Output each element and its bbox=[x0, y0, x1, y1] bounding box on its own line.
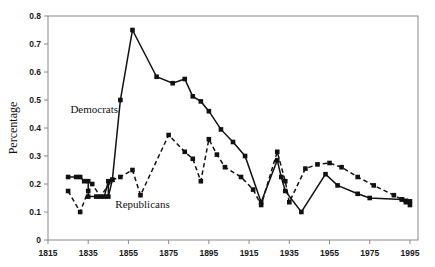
x-tick-label: 1935 bbox=[280, 248, 299, 258]
y-axis-tick-labels: 00.10.20.30.40.50.60.70.8 bbox=[29, 11, 41, 245]
data-point-republicans bbox=[275, 150, 280, 155]
x-tick-label: 1995 bbox=[400, 248, 419, 258]
x-tick-label: 1955 bbox=[320, 248, 339, 258]
data-point-democrats bbox=[335, 183, 340, 188]
data-point-republicans bbox=[315, 162, 320, 167]
data-point-republicans bbox=[130, 168, 135, 173]
data-point-republicans bbox=[404, 199, 409, 204]
data-point-republicans bbox=[408, 199, 413, 204]
plot-frame bbox=[48, 16, 418, 240]
data-point-democrats bbox=[66, 175, 71, 180]
data-point-republicans bbox=[86, 189, 91, 194]
data-point-democrats bbox=[154, 74, 159, 79]
data-point-democrats bbox=[367, 196, 372, 201]
data-point-democrats bbox=[279, 175, 284, 180]
data-point-democrats bbox=[207, 109, 212, 114]
axis-ticks bbox=[44, 16, 410, 244]
data-point-republicans bbox=[90, 182, 95, 187]
x-tick-label: 1875 bbox=[159, 248, 178, 258]
data-point-democrats bbox=[243, 154, 248, 159]
data-series-group bbox=[68, 30, 410, 212]
data-point-republicans bbox=[182, 150, 187, 155]
data-point-republicans bbox=[190, 157, 195, 162]
y-tick-label: 0.2 bbox=[29, 179, 41, 189]
data-point-republicans bbox=[239, 175, 244, 180]
y-tick-label: 0.5 bbox=[29, 95, 41, 105]
data-point-republicans bbox=[66, 189, 71, 194]
data-point-democrats bbox=[182, 77, 187, 82]
data-point-democrats bbox=[82, 179, 87, 184]
data-point-republicans bbox=[98, 194, 103, 199]
data-point-democrats bbox=[130, 28, 135, 33]
data-point-democrats bbox=[219, 127, 224, 132]
data-point-democrats bbox=[78, 175, 83, 180]
data-point-democrats bbox=[355, 192, 360, 197]
x-tick-label: 1835 bbox=[79, 248, 98, 258]
x-tick-label: 1895 bbox=[199, 248, 218, 258]
data-point-democrats bbox=[86, 194, 91, 199]
x-tick-label: 1975 bbox=[360, 248, 379, 258]
data-point-republicans bbox=[287, 200, 292, 205]
data-point-republicans bbox=[110, 178, 115, 183]
data-point-democrats bbox=[323, 172, 328, 177]
data-point-republicans bbox=[118, 175, 123, 180]
x-tick-label: 1815 bbox=[39, 248, 58, 258]
data-point-democrats bbox=[74, 175, 79, 180]
data-point-democrats bbox=[190, 94, 195, 99]
y-tick-label: 0.8 bbox=[29, 11, 41, 21]
data-point-democrats bbox=[199, 99, 204, 104]
chart-figure: 1815183518551875189519151935195519751995… bbox=[0, 0, 435, 267]
y-tick-label: 0.6 bbox=[29, 67, 41, 77]
data-point-republicans bbox=[78, 210, 83, 215]
data-point-democrats bbox=[231, 140, 236, 145]
data-point-republicans bbox=[207, 137, 212, 142]
data-point-republicans bbox=[223, 165, 228, 170]
y-tick-label: 0.1 bbox=[29, 207, 41, 217]
y-tick-label: 0.3 bbox=[29, 151, 41, 161]
data-point-republicans bbox=[283, 179, 288, 184]
data-point-republicans bbox=[339, 165, 344, 170]
data-point-democrats bbox=[86, 179, 91, 184]
x-axis-tick-labels: 1815183518551875189519151935195519751995 bbox=[39, 248, 420, 258]
y-axis-title: Percentage bbox=[6, 102, 20, 155]
data-point-republicans bbox=[199, 179, 204, 184]
y-tick-label: 0.7 bbox=[29, 39, 41, 49]
x-tick-label: 1915 bbox=[240, 248, 259, 258]
line-chart: 1815183518551875189519151935195519751995… bbox=[0, 0, 435, 267]
data-point-democrats bbox=[299, 210, 304, 215]
series-line-democrats bbox=[68, 30, 410, 212]
series-annotations: DemocratsRepublicans bbox=[70, 103, 169, 210]
data-point-democrats bbox=[170, 81, 175, 86]
data-point-republicans bbox=[303, 166, 308, 171]
data-point-republicans bbox=[392, 193, 397, 198]
x-tick-label: 1855 bbox=[119, 248, 138, 258]
series-annotation: Republicans bbox=[115, 198, 169, 210]
data-point-democrats bbox=[102, 194, 107, 199]
data-point-republicans bbox=[371, 183, 376, 188]
data-point-democrats bbox=[275, 158, 280, 163]
y-tick-label: 0 bbox=[36, 235, 41, 245]
data-point-republicans bbox=[259, 203, 264, 208]
data-point-republicans bbox=[166, 133, 171, 138]
series-annotation: Democrats bbox=[70, 103, 118, 115]
data-point-republicans bbox=[400, 197, 405, 202]
data-point-democrats bbox=[106, 179, 111, 184]
data-point-republicans bbox=[138, 193, 143, 198]
y-tick-label: 0.4 bbox=[29, 123, 41, 133]
data-point-republicans bbox=[251, 187, 256, 192]
data-point-republicans bbox=[327, 161, 332, 166]
data-point-democrats bbox=[106, 194, 111, 199]
data-point-republicans bbox=[355, 175, 360, 180]
data-point-democrats bbox=[118, 98, 123, 103]
data-point-democrats bbox=[94, 194, 99, 199]
data-point-democrats bbox=[283, 189, 288, 194]
data-point-republicans bbox=[215, 152, 220, 157]
